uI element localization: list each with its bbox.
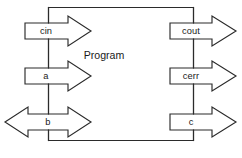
arrow-cerr[interactable]: cerr — [170, 61, 236, 91]
arrow-cout-label: cout — [182, 26, 200, 36]
arrow-c-shape — [170, 107, 236, 137]
arrow-b-label: b — [45, 117, 50, 127]
arrow-cerr-label: cerr — [183, 71, 199, 81]
arrow-cin-label: cin — [40, 26, 52, 36]
program-stream-diagram: Program cin a b cout cerr — [0, 0, 242, 158]
arrow-cin[interactable]: cin — [25, 16, 91, 46]
arrow-c-label: c — [189, 117, 194, 127]
arrow-a[interactable]: a — [25, 61, 91, 91]
arrow-a-shape — [25, 61, 91, 91]
stream-diagram-canvas: Program cin a b cout cerr — [0, 0, 242, 158]
arrow-c[interactable]: c — [170, 107, 236, 137]
program-label: Program — [84, 49, 125, 61]
arrow-cerr-shape — [170, 61, 236, 91]
arrow-cout[interactable]: cout — [170, 16, 236, 46]
arrow-cout-shape — [170, 16, 236, 46]
arrow-a-label: a — [43, 71, 49, 81]
arrow-cin-shape — [25, 16, 91, 46]
